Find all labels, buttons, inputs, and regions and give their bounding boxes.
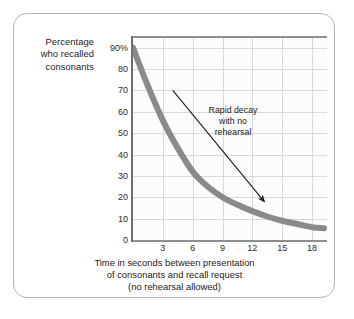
y-axis-title-line-1: Percentage [20, 36, 94, 48]
y-axis-tick-label: 90% [94, 43, 128, 53]
y-axis-tick-label: 80 [94, 64, 128, 74]
y-axis-tick-label: 30 [94, 171, 128, 181]
annotation-label: Rapid decay with no rehearsal [196, 105, 270, 138]
x-axis-caption-line-2: of consonants and recall request [22, 269, 327, 281]
x-axis-tick-label: 9 [220, 243, 225, 253]
x-axis-caption-line-3: (no rehearsal allowed) [22, 281, 327, 293]
y-axis-title: Percentage who recalled consonants [20, 36, 94, 73]
y-axis-tick-label: 60 [94, 107, 128, 117]
y-axis-tick-label: 50 [94, 128, 128, 138]
plot-top-rule [133, 36, 327, 38]
x-axis-tick-label: 18 [307, 243, 317, 253]
chart-figure: Percentage who recalled consonants 01020… [0, 0, 354, 319]
y-axis-tick-label: 70 [94, 85, 128, 95]
x-axis-caption-line-1: Time in seconds between presentation [22, 257, 327, 269]
data-curve-svg [133, 37, 327, 240]
x-axis-tick-label: 12 [247, 243, 257, 253]
y-axis-tick-labels: 0102030405060708090% [94, 37, 128, 240]
y-axis-tick-label: 0 [94, 235, 128, 245]
y-axis-tick-label: 20 [94, 192, 128, 202]
x-axis-line [133, 240, 327, 242]
y-axis-tick-label: 40 [94, 150, 128, 160]
x-axis-tick-label: 3 [160, 243, 165, 253]
y-axis-title-line-2: who recalled [20, 48, 94, 60]
x-axis-caption: Time in seconds between presentation of … [22, 257, 327, 294]
annotation-line-3: rehearsal [196, 127, 270, 138]
x-axis-tick-label: 6 [190, 243, 195, 253]
plot-area [133, 37, 327, 240]
y-axis-title-line-3: consonants [20, 61, 94, 73]
annotation-line-1: Rapid decay [196, 105, 270, 116]
y-axis-line [131, 36, 133, 242]
x-axis-tick-label: 15 [277, 243, 287, 253]
annotation-line-2: with no [196, 116, 270, 127]
x-axis-tick-labels: 369121518 [133, 243, 327, 257]
y-axis-tick-label: 10 [94, 214, 128, 224]
